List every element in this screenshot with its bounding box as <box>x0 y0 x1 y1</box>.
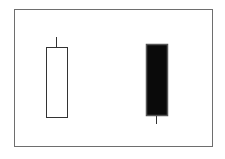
white-body <box>47 48 68 118</box>
candlestick-chart <box>0 0 225 159</box>
bearish-candle <box>147 45 168 125</box>
bullish-candle <box>47 37 68 118</box>
black-body <box>147 45 168 116</box>
